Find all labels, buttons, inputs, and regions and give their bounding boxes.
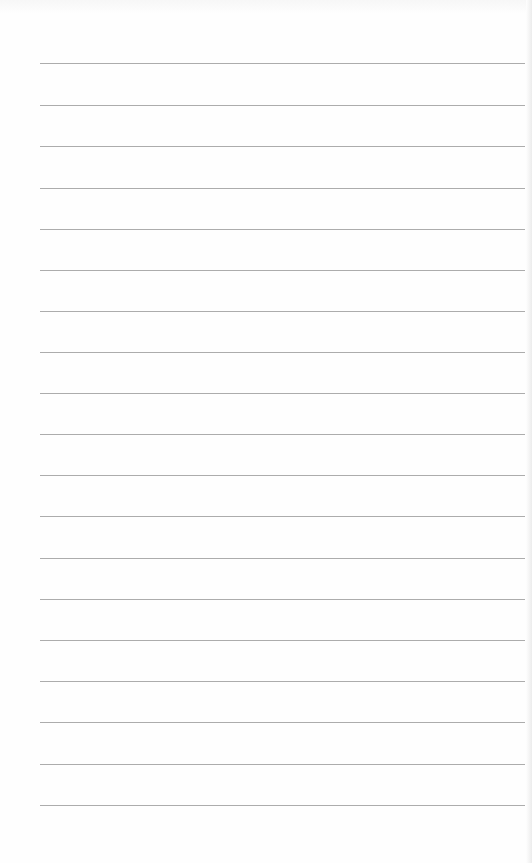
ruled-line — [40, 393, 525, 394]
ruled-line — [40, 270, 525, 271]
ruled-line — [40, 475, 525, 476]
ruled-line — [40, 764, 525, 765]
ruled-line — [40, 105, 525, 106]
ruled-line — [40, 599, 525, 600]
ruled-line — [40, 311, 525, 312]
top-edge-texture — [0, 0, 532, 14]
right-edge-shadow — [526, 0, 532, 863]
ruled-line — [40, 640, 525, 641]
ruled-line — [40, 63, 525, 64]
ruled-line — [40, 805, 525, 806]
ruled-line — [40, 722, 525, 723]
lined-paper-page — [0, 0, 532, 863]
ruled-line — [40, 188, 525, 189]
ruled-line — [40, 146, 525, 147]
ruled-line — [40, 681, 525, 682]
ruled-line — [40, 229, 525, 230]
ruled-line — [40, 558, 525, 559]
ruled-line — [40, 434, 525, 435]
ruled-line — [40, 516, 525, 517]
ruled-line — [40, 352, 525, 353]
